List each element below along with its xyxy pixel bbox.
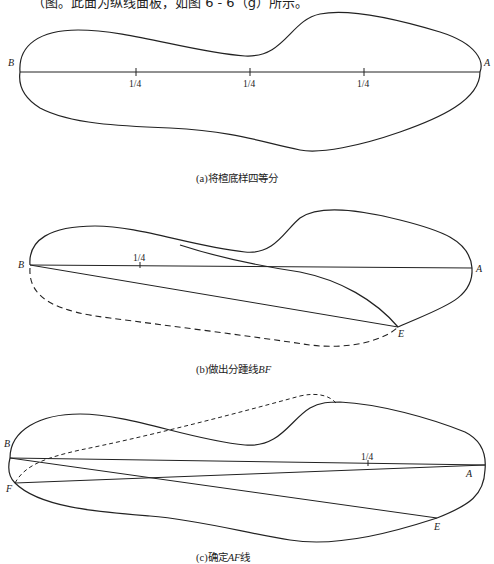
point-label-b: B [4,438,10,449]
tick-label-1: 1/4 [129,79,141,89]
caption-c-text: (c)确定 [196,552,228,563]
dashed-mirrored-outline-c [15,394,336,483]
line-af [15,465,485,483]
mirrored-curve-b [180,245,398,327]
point-label-a: A [475,263,483,274]
point-label-a: A [465,468,473,479]
tick-label-1: 1/4 [361,452,373,462]
caption-c: (c)确定AF线 [196,549,250,564]
caption-a-text: (a)将楦底样四等分 [196,173,278,184]
line-be [10,458,437,518]
caption-c-suffix: 线 [240,552,250,563]
tick-label-2: 1/4 [243,79,255,89]
point-label-b: B [18,259,24,270]
axis-line-ba [10,458,485,465]
shoe-last-bottom-diagrams: 1/4 1/4 1/4 B A 1/4 B A E 1/4 B A E F [0,0,494,564]
panel-a: 1/4 1/4 1/4 B A [8,12,491,151]
caption-b-italic: BF [258,364,271,375]
caption-c-italic: AF [228,552,241,563]
point-label-f: F [5,483,13,494]
point-label-e: E [397,328,404,339]
point-label-e: E [433,521,440,532]
panel-b: 1/4 B A E [18,210,483,347]
tick-label-3: 1/4 [357,79,369,89]
dashed-original-outline-b [30,268,398,346]
caption-b-text: (b)做出分踵线 [196,364,258,375]
line-be [30,265,398,327]
caption-a: (a)将楦底样四等分 [196,170,278,185]
point-label-a: A [483,57,491,68]
axis-line-ba [30,265,472,268]
outline-top-b [30,210,472,268]
tick-label-1: 1/4 [133,253,145,263]
panel-c: 1/4 B A E F [4,394,485,542]
caption-b: (b)做出分踵线BF [196,361,271,376]
outline-right-b [398,268,472,327]
outline-c [9,402,485,542]
point-label-b: B [8,57,14,68]
